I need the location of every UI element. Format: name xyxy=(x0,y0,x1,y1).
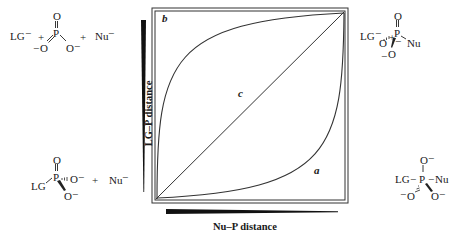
lg-text: LG xyxy=(360,31,375,42)
bond-dash: − xyxy=(410,174,416,185)
x-axis-wedge xyxy=(166,209,338,214)
charge-text: − xyxy=(428,153,434,164)
charge-text: − xyxy=(72,189,78,200)
charge-text: − xyxy=(400,189,406,200)
oxygen-text: O xyxy=(431,191,439,202)
nu-text: Nu xyxy=(435,174,448,185)
nu-text: Nu xyxy=(407,38,420,49)
oxygen-text: O xyxy=(53,155,61,166)
charge-text: − xyxy=(25,28,31,39)
lg-text: LG xyxy=(31,181,46,192)
charge-text: − xyxy=(381,51,387,62)
plus-text: + xyxy=(92,175,98,186)
oxygen-text: O xyxy=(40,43,48,54)
lg-text: LG xyxy=(10,31,25,42)
oxygen-text: O xyxy=(407,191,415,202)
plus-text: + xyxy=(80,32,86,43)
bond-dash: − xyxy=(428,174,434,185)
oxygen-text: O xyxy=(379,38,387,49)
curve-label-a: a xyxy=(314,164,320,176)
phosphorus-text: P xyxy=(419,174,425,185)
charge-text: − xyxy=(33,43,39,54)
charge-text: − xyxy=(395,36,401,47)
oxygen-text: O xyxy=(53,11,61,22)
phosphorus-text: P xyxy=(53,172,59,183)
oxygen-text: O xyxy=(394,11,402,22)
nu-text: Nu xyxy=(95,31,108,42)
curve-label-b: b xyxy=(162,12,168,24)
charge-text: − xyxy=(78,172,84,183)
charge-text: − xyxy=(108,28,114,39)
x-axis-label: Nu–P distance xyxy=(213,221,277,232)
oxygen-text: O xyxy=(388,49,396,60)
y-axis-label: LG–P distance xyxy=(143,74,154,154)
lg-text: LG xyxy=(395,174,410,185)
oxygen-text: O xyxy=(64,191,72,202)
charge-text: − xyxy=(439,189,445,200)
charge-text: − xyxy=(122,172,128,183)
oxygen-text: O xyxy=(66,43,74,54)
oxygen-text: O xyxy=(70,174,78,185)
nu-text: Nu xyxy=(109,175,122,186)
curve-label-c: c xyxy=(238,87,243,99)
phosphorus-text: P xyxy=(53,28,59,39)
oxygen-text: O xyxy=(420,155,428,166)
